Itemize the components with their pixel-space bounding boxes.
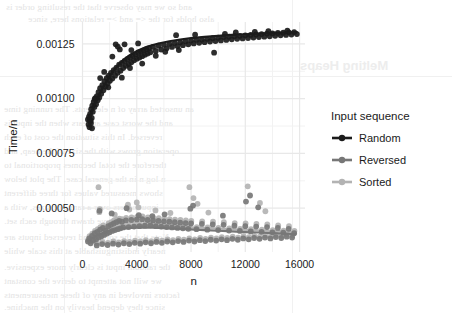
x-tick-label: 16000 [285,258,314,270]
y-axis-tick-labels: 0.000500.000750.001000.00125 [37,38,75,214]
x-tick-label: 0 [80,258,86,270]
y-tick-label: 0.00075 [37,147,75,159]
legend-entry-reversed[interactable]: Reversed [332,154,406,166]
legend-entry-sorted[interactable]: Sorted [332,176,391,188]
legend-entries: RandomReversedSorted [332,132,406,188]
x-tick-label: 12000 [231,258,260,270]
x-tick-label: 4000 [125,258,149,270]
legend-label: Sorted [359,176,391,188]
legend-label: Random [359,132,401,144]
chart-legend: Input sequence RandomReversedSorted [331,110,410,188]
x-axis-title: n [191,275,197,287]
y-tick-label: 0.00125 [37,38,75,50]
chart-canvas: 0400080001200016000 0.000500.000750.0010… [0,0,452,313]
scatter-plot-figure: 0400080001200016000 0.000500.000750.0010… [0,0,452,313]
x-axis-tick-labels: 0400080001200016000 [80,258,315,270]
y-axis-title: Time/n [7,120,19,155]
data-series-layer [85,28,300,248]
y-tick-label: 0.00100 [37,92,75,104]
legend-label: Reversed [359,154,406,166]
y-tick-label: 0.00050 [37,202,75,214]
legend-title: Input sequence [331,110,410,122]
legend-entry-random[interactable]: Random [332,132,401,144]
x-tick-label: 8000 [179,258,203,270]
